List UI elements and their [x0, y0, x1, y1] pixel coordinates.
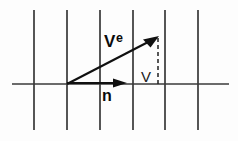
label-ve-main-text: V — [104, 32, 116, 51]
label-n-text: n — [102, 87, 112, 104]
figure-canvas: V e n V — [0, 0, 238, 141]
label-v-text: V — [141, 68, 151, 85]
label-ve-sub-text: e — [116, 31, 123, 45]
figure-background — [0, 0, 238, 141]
vector-diagram-figure: V e n V — [0, 0, 238, 141]
